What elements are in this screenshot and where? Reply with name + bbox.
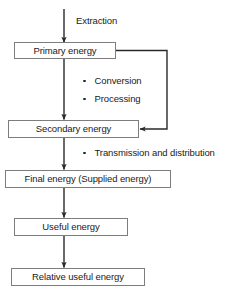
bullet-dot-icon	[83, 152, 86, 155]
bullet-dot-icon	[83, 98, 86, 101]
energy-flow-diagram: Extraction Primary energy Conversion Pro…	[0, 0, 235, 294]
node-relative-useful-energy[interactable]: Relative useful energy	[11, 268, 145, 286]
node-final-energy-label: Final energy (Supplied energy)	[25, 174, 152, 184]
bullet-conversion-label: Conversion	[95, 76, 142, 86]
node-useful-energy-label: Useful energy	[42, 222, 99, 232]
feedback-loop-primary-to-secondary	[116, 51, 167, 130]
node-final-energy[interactable]: Final energy (Supplied energy)	[5, 170, 171, 188]
node-secondary-energy[interactable]: Secondary energy	[8, 120, 139, 138]
node-relative-useful-energy-label: Relative useful energy	[32, 272, 124, 282]
node-secondary-energy-label: Secondary energy	[36, 124, 112, 134]
bullet-processing-label: Processing	[95, 94, 141, 104]
node-primary-energy[interactable]: Primary energy	[14, 42, 116, 59]
bullet-transmission-and-distribution: Transmission and distribution	[83, 148, 215, 158]
edge-label-extraction: Extraction	[76, 16, 117, 26]
bullet-processing: Processing	[83, 94, 141, 104]
bullet-conversion: Conversion	[83, 76, 142, 86]
node-useful-energy[interactable]: Useful energy	[14, 218, 128, 236]
bullet-dot-icon	[83, 80, 86, 83]
node-primary-energy-label: Primary energy	[33, 46, 96, 56]
bullet-transmission-label: Transmission and distribution	[95, 148, 215, 158]
